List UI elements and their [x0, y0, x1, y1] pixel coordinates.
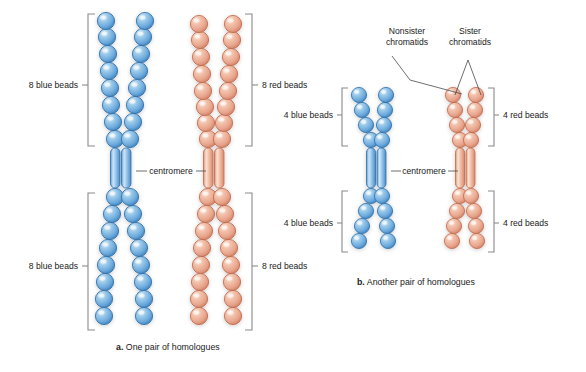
caption-b-marker: b.: [357, 277, 365, 287]
centromere-bar-blue-right: [122, 148, 132, 188]
centromere-bar-b-red-left: [456, 148, 465, 188]
caption-a: a. One pair of homologues: [116, 342, 220, 352]
centromere-label-a: centromere: [149, 166, 193, 176]
centromere-bar-b-red-right: [466, 148, 475, 188]
centromere-bar-blue-left: [111, 148, 121, 188]
label-a-top-left: 8 blue beads: [29, 80, 78, 90]
caption-a-marker: a.: [116, 342, 123, 352]
nonsister-chromatids-label-line1: Nonsister: [389, 26, 425, 36]
nonsister-chromatids-label-line2: chromatids: [386, 37, 428, 47]
label-b-bottom-right: 4 red beads: [503, 218, 548, 228]
label-b-top-right: 4 red beads: [503, 110, 548, 120]
caption-b: b. Another pair of homologues: [357, 277, 475, 287]
label-a-bottom-left: 8 blue beads: [29, 261, 78, 271]
centromere-bar-red-left: [204, 148, 214, 188]
label-b-top-left: 4 blue beads: [284, 110, 333, 120]
sister-chromatids-label-line2: chromatids: [449, 37, 491, 47]
figure-canvas: 8 blue beads 8 blue beads 8 red beads 8 …: [0, 0, 586, 372]
sister-chromatids-label-line1: Sister: [459, 26, 481, 36]
label-b-bottom-left: 4 blue beads: [284, 218, 333, 228]
label-a-bottom-right: 8 red beads: [262, 261, 307, 271]
centromere-label-b: centromere: [402, 166, 446, 176]
centromere-bar-red-right: [215, 148, 225, 188]
caption-a-text: One pair of homologues: [126, 342, 220, 352]
label-a-top-right: 8 red beads: [262, 80, 307, 90]
caption-b-text: Another pair of homologues: [367, 277, 476, 287]
bead-chromosome-diagram: 8 blue beads 8 blue beads 8 red beads 8 …: [0, 0, 586, 372]
centromere-bar-b-blue-left: [367, 148, 376, 188]
centromere-bar-b-blue-right: [377, 148, 386, 188]
